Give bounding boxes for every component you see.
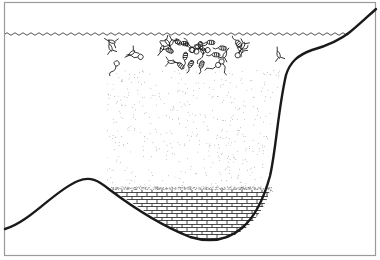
stipple-dot [107,130,108,131]
sediment-grain [127,188,128,189]
sediment-grain [169,189,170,190]
stipple-dot [196,173,197,174]
stipple-dot [149,180,150,181]
stipple-dot [199,144,200,145]
stipple-dot [213,117,214,118]
stipple-dot [205,173,206,174]
stipple-dot [156,85,157,86]
stipple-dot [230,82,231,83]
stipple-dot [208,150,209,151]
sediment-grain [175,188,176,189]
stipple-dot [209,87,210,88]
stipple-dot [116,122,117,123]
sediment-grain [134,189,135,190]
sediment-grain [240,187,241,188]
sediment-grain [248,187,249,188]
sediment-grain [203,188,204,189]
sediment-grain [246,187,247,188]
stipple-dot [127,88,128,89]
stipple-dot [174,108,175,109]
stipple-dot [246,161,247,162]
stipple-dot [196,136,197,137]
sediment-grain [128,189,129,190]
sediment-grain [146,189,147,190]
sediment-grain [155,189,156,190]
sediment-grain [121,187,122,188]
stipple-dot [118,96,119,97]
sediment-grain [188,188,189,189]
sediment-grain [136,189,137,190]
stipple-dot [142,70,143,71]
sediment-grain [238,188,239,189]
stipple-dot [240,80,241,81]
sediment-grain [195,189,196,190]
stipple-dot [249,146,250,147]
stipple-dot [229,138,230,139]
sediment-grain [175,187,176,188]
stipple-dot [208,129,209,130]
stipple-dot [151,172,152,173]
stipple-dot [108,73,109,74]
stipple-dot [211,184,212,185]
sediment-grain [239,189,240,190]
sediment-grain [252,187,253,188]
sediment-grain [157,189,158,190]
stipple-dot [174,154,175,155]
stipple-dot [122,81,123,82]
sediment-grain [172,188,173,189]
stipple-dot [187,135,188,136]
sediment-grain [176,189,177,190]
stipple-dot [155,129,156,130]
stipple-dot [209,94,210,95]
stipple-dot [121,105,122,106]
sediment-grain [148,188,149,189]
stipple-dot [120,113,121,114]
stipple-dot [246,90,247,91]
sediment-grain [191,189,192,190]
sediment-grain [202,187,203,188]
stipple-dot [159,93,160,94]
stipple-dot [108,98,109,99]
sediment-grain [118,189,119,190]
stipple-dot [127,143,128,144]
stipple-dot [270,123,271,124]
stipple-dot [178,118,179,119]
stipple-dot [178,83,179,84]
sediment-grain [161,187,162,188]
sediment-grain [131,188,132,189]
stipple-dot [217,185,218,186]
sediment-grain [203,189,204,190]
stipple-dot [156,105,157,106]
stipple-dot [137,77,138,78]
stipple-dot [249,148,250,149]
sediment-grain [143,187,144,188]
stipple-dot [209,147,210,148]
sediment-grain [271,190,272,191]
stipple-dot [262,164,263,165]
sediment-grain [118,187,119,188]
stipple-dot [115,142,116,143]
sediment-grain [151,189,152,190]
sediment-grain [112,188,113,189]
stipple-dot [167,151,168,152]
sediment-grain [271,188,272,189]
stipple-dot [185,83,186,84]
stipple-dot [122,79,123,80]
sediment-grain [116,189,117,190]
stipple-dot [116,161,117,162]
sediment-grain [145,189,146,190]
sediment-grain [258,189,259,190]
stipple-dot [152,175,153,176]
stipple-dot [207,126,208,127]
stipple-dot [134,128,135,129]
sediment-grain [206,187,207,188]
sediment-grain [149,187,150,188]
sediment-grain [137,188,138,189]
stipple-dot [243,136,244,137]
stipple-dot [189,188,190,189]
sediment-grain [142,187,143,188]
stipple-dot [243,112,244,113]
stipple-dot [148,170,149,171]
stipple-dot [126,180,127,181]
stipple-dot [231,142,232,143]
